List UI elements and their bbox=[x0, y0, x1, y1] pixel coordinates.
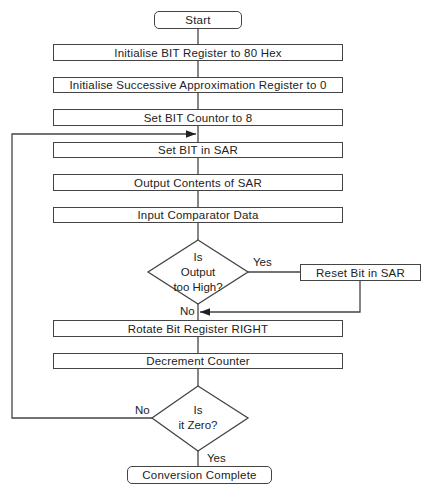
decision2-text: Is it Zero? bbox=[163, 403, 233, 433]
decision1-line3: too High? bbox=[158, 280, 238, 295]
step-set-bit-counter: Set BIT Countor to 8 bbox=[53, 109, 343, 126]
end-terminal: Conversion Complete bbox=[127, 466, 272, 484]
step-init-sar: Initialise Successive Approximation Regi… bbox=[53, 77, 343, 93]
decision2-yes-label: Yes bbox=[207, 452, 226, 464]
step-decrement: Decrement Counter bbox=[53, 353, 343, 369]
decision1-yes-label: Yes bbox=[253, 256, 272, 268]
decision1-line1: Is bbox=[158, 250, 238, 265]
decision1-text: Is Output too High? bbox=[158, 250, 238, 295]
start-terminal: Start bbox=[154, 11, 242, 29]
step-output-sar: Output Contents of SAR bbox=[53, 174, 343, 191]
step-input-comparator: Input Comparator Data bbox=[53, 207, 343, 223]
decision1-line2: Output bbox=[158, 265, 238, 280]
step-rotate-right: Rotate Bit Register RIGHT bbox=[53, 320, 343, 337]
decision2-no-label: No bbox=[135, 404, 150, 416]
step-reset-bit: Reset Bit in SAR bbox=[300, 264, 421, 281]
step-set-bit-in-sar: Set BIT in SAR bbox=[53, 142, 343, 158]
decision2-line2: it Zero? bbox=[163, 418, 233, 433]
decision2-line1: Is bbox=[163, 403, 233, 418]
decision1-no-label: No bbox=[180, 305, 195, 317]
step-init-bit-register: Initialise BIT Register to 80 Hex bbox=[53, 44, 343, 61]
